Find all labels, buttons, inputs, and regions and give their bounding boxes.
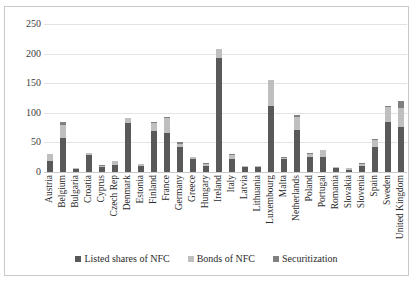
stacked-bar[interactable] — [281, 157, 287, 172]
bar-segment[interactable] — [333, 168, 339, 172]
stacked-bar[interactable] — [112, 161, 118, 172]
bar-segment[interactable] — [203, 166, 209, 173]
bar-segment[interactable] — [281, 159, 287, 172]
stacked-bar[interactable] — [86, 153, 92, 173]
bar-segment[interactable] — [268, 106, 274, 172]
stacked-bar[interactable] — [242, 166, 248, 172]
bar-group[interactable] — [316, 24, 329, 172]
legend-item[interactable]: Bonds of NFC — [188, 254, 255, 264]
bar-segment[interactable] — [60, 125, 66, 139]
stacked-bar[interactable] — [60, 122, 66, 172]
stacked-bar[interactable] — [125, 118, 131, 172]
stacked-bar[interactable] — [398, 101, 404, 172]
bar-segment[interactable] — [385, 122, 391, 172]
bar-group[interactable] — [148, 24, 161, 172]
bar-segment[interactable] — [359, 166, 365, 173]
x-axis-label: Greece — [188, 175, 198, 202]
stacked-bar[interactable] — [216, 49, 222, 172]
bar-group[interactable] — [329, 24, 342, 172]
stacked-bar[interactable] — [99, 165, 105, 172]
stacked-bar[interactable] — [307, 153, 313, 172]
bar-segment[interactable] — [151, 123, 157, 131]
bar-group[interactable] — [83, 24, 96, 172]
bar-group[interactable] — [70, 24, 83, 172]
bar-group[interactable] — [381, 24, 394, 172]
bar-segment[interactable] — [385, 107, 391, 121]
bar-group[interactable] — [226, 24, 239, 172]
bar-segment[interactable] — [229, 159, 235, 172]
bar-segment[interactable] — [346, 170, 352, 172]
stacked-bar[interactable] — [73, 168, 79, 172]
bar-segment[interactable] — [164, 133, 170, 172]
bar-segment[interactable] — [255, 167, 261, 172]
stacked-bar[interactable] — [151, 122, 157, 172]
bar-segment[interactable] — [307, 157, 313, 172]
bar-segment[interactable] — [164, 118, 170, 133]
bar-segment[interactable] — [216, 58, 222, 172]
stacked-bar[interactable] — [47, 154, 53, 172]
stacked-bar[interactable] — [385, 106, 391, 172]
bar-group[interactable] — [277, 24, 290, 172]
bar-segment[interactable] — [216, 49, 222, 57]
bar-segment[interactable] — [138, 166, 144, 173]
bar-group[interactable] — [355, 24, 368, 172]
x-axis-label: France — [162, 175, 172, 201]
stacked-bar[interactable] — [138, 164, 144, 172]
bar-group[interactable] — [239, 24, 252, 172]
bar-segment[interactable] — [151, 131, 157, 172]
bar-segment[interactable] — [372, 147, 378, 172]
stacked-bar[interactable] — [333, 167, 339, 172]
stacked-bar[interactable] — [372, 139, 378, 172]
legend-item[interactable]: Listed shares of NFC — [75, 254, 169, 264]
bar-segment[interactable] — [190, 159, 196, 172]
stacked-bar[interactable] — [359, 163, 365, 172]
bar-group[interactable] — [342, 24, 355, 172]
bar-group[interactable] — [57, 24, 70, 172]
stacked-bar[interactable] — [268, 80, 274, 172]
bar-group[interactable] — [394, 24, 407, 172]
bar-segment[interactable] — [294, 130, 300, 172]
legend-item[interactable]: Securitization — [273, 254, 338, 264]
bar-segment[interactable] — [320, 150, 326, 157]
bar-segment[interactable] — [398, 127, 404, 172]
bar-segment[interactable] — [60, 138, 66, 172]
stacked-bar[interactable] — [255, 166, 261, 172]
bar-group[interactable] — [303, 24, 316, 172]
bar-segment[interactable] — [320, 157, 326, 172]
bar-group[interactable] — [44, 24, 57, 172]
bar-group[interactable] — [368, 24, 381, 172]
x-axis-label: Poland — [305, 175, 315, 201]
bar-group[interactable] — [213, 24, 226, 172]
bar-segment[interactable] — [268, 80, 274, 106]
bar-group[interactable] — [200, 24, 213, 172]
bar-group[interactable] — [122, 24, 135, 172]
bar-segment[interactable] — [398, 101, 404, 108]
bar-segment[interactable] — [99, 167, 105, 172]
stacked-bar[interactable] — [203, 163, 209, 172]
bar-segment[interactable] — [47, 161, 53, 172]
bar-group[interactable] — [174, 24, 187, 172]
stacked-bar[interactable] — [229, 154, 235, 172]
bar-segment[interactable] — [73, 169, 79, 172]
stacked-bar[interactable] — [190, 157, 196, 172]
bar-segment[interactable] — [86, 155, 92, 172]
bar-segment[interactable] — [398, 108, 404, 127]
bar-segment[interactable] — [125, 123, 131, 172]
bar-group[interactable] — [264, 24, 277, 172]
bar-segment[interactable] — [242, 167, 248, 172]
bar-group[interactable] — [187, 24, 200, 172]
stacked-bar[interactable] — [346, 168, 352, 172]
bar-segment[interactable] — [177, 147, 183, 172]
stacked-bar[interactable] — [294, 115, 300, 172]
bar-group[interactable] — [290, 24, 303, 172]
stacked-bar[interactable] — [320, 150, 326, 172]
bar-group[interactable] — [96, 24, 109, 172]
bar-segment[interactable] — [112, 165, 118, 172]
bar-group[interactable] — [109, 24, 122, 172]
bar-group[interactable] — [252, 24, 265, 172]
stacked-bar[interactable] — [177, 142, 183, 172]
bar-segment[interactable] — [294, 117, 300, 130]
bar-group[interactable] — [135, 24, 148, 172]
stacked-bar[interactable] — [164, 117, 170, 172]
bar-group[interactable] — [161, 24, 174, 172]
